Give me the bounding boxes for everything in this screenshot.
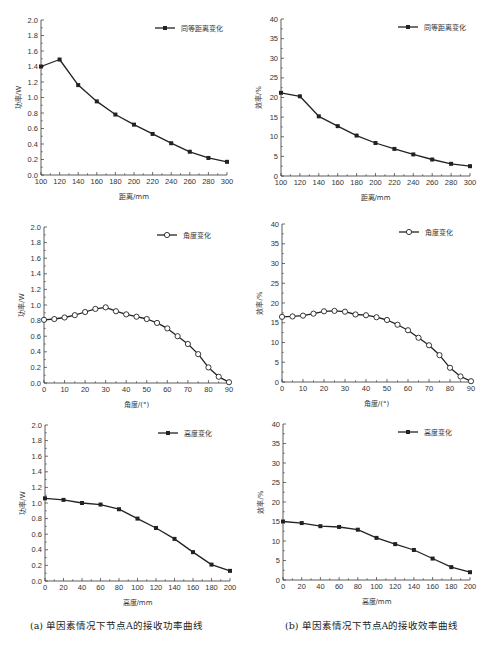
- data-point: [62, 315, 67, 320]
- data-point: [39, 65, 43, 69]
- x-tick-label: 20: [81, 385, 89, 394]
- x-tick-label: 80: [354, 582, 362, 591]
- data-point: [318, 524, 322, 528]
- x-tick-label: 140: [72, 177, 85, 186]
- data-point: [375, 536, 379, 540]
- data-point: [113, 309, 118, 314]
- y-tick-label: 1.2: [32, 483, 42, 492]
- y-tick-label: 1.0: [32, 499, 42, 508]
- y-tick-label: 15: [271, 318, 279, 327]
- data-point: [93, 306, 98, 311]
- data-point: [353, 312, 358, 317]
- chart-power-height: 0.00.20.40.60.81.01.21.41.61.82.00204060…: [18, 421, 236, 607]
- x-axis-label: 高度/mm: [362, 597, 392, 606]
- data-point: [175, 334, 180, 339]
- data-point: [151, 132, 155, 136]
- x-tick-label: 140: [168, 583, 181, 592]
- legend: 角度变化: [399, 228, 453, 237]
- data-point: [228, 569, 232, 573]
- y-tick-label: 0.4: [31, 347, 41, 356]
- y-tick-label: 1.2: [31, 285, 41, 294]
- y-tick-label: 35: [271, 239, 279, 248]
- legend-marker-icon: [406, 25, 410, 29]
- x-tick-label: 300: [464, 178, 477, 187]
- x-tick-label: 160: [91, 177, 104, 186]
- data-point: [342, 309, 347, 314]
- data-point: [165, 326, 170, 331]
- x-tick-label: 90: [225, 385, 233, 394]
- x-tick-label: 10: [60, 385, 68, 394]
- y-axis-label: 效率/%: [255, 291, 264, 314]
- data-point: [225, 160, 229, 164]
- data-point: [83, 309, 88, 314]
- data-point: [374, 315, 379, 320]
- x-tick-label: 280: [202, 177, 215, 186]
- x-tick-label: 40: [316, 582, 324, 591]
- x-tick-label: 40: [78, 583, 86, 592]
- y-tick-label: 0.8: [32, 514, 42, 523]
- x-tick-label: 200: [128, 177, 141, 186]
- y-tick-label: 1.8: [31, 238, 41, 247]
- legend-label: 角度变化: [425, 228, 453, 237]
- data-point: [430, 158, 434, 162]
- y-tick-label: 0.6: [28, 124, 38, 133]
- data-point: [154, 526, 158, 530]
- y-tick-label: 40: [270, 15, 278, 24]
- y-tick-label: 20: [272, 498, 280, 507]
- x-tick-label: 80: [115, 583, 123, 592]
- legend-marker-icon: [166, 431, 170, 435]
- y-tick-label: 0.2: [31, 363, 41, 372]
- data-point: [62, 498, 66, 502]
- data-point: [449, 162, 453, 166]
- caption-power-curves: (a) 单因素情况下节点A的接收功率曲线: [30, 618, 203, 632]
- legend: 高度变化: [398, 428, 452, 437]
- data-point: [300, 313, 305, 318]
- x-tick-label: 20: [298, 582, 306, 591]
- data-point: [52, 316, 57, 321]
- data-point: [412, 548, 416, 552]
- data-point: [411, 152, 415, 156]
- x-tick-label: 20: [59, 583, 67, 592]
- x-axis-label: 高度/mm: [123, 598, 153, 607]
- y-axis-label: 功率/W: [17, 293, 26, 316]
- x-axis-label: 角度/(°): [364, 399, 390, 408]
- y-tick-label: 2.0: [31, 223, 41, 232]
- data-point: [206, 156, 210, 160]
- y-tick-label: 1.2: [28, 78, 38, 87]
- legend-marker-icon: [163, 26, 167, 30]
- data-point: [374, 141, 378, 145]
- x-tick-label: 60: [404, 384, 412, 393]
- legend-marker-icon: [406, 229, 411, 234]
- x-tick-label: 180: [205, 583, 218, 592]
- data-point: [395, 322, 400, 327]
- y-tick-label: 0.8: [28, 109, 38, 118]
- x-axis-label: 角度/(°): [124, 400, 150, 409]
- x-tick-label: 220: [146, 177, 159, 186]
- x-tick-label: 120: [53, 177, 66, 186]
- legend: 高度变化: [158, 429, 212, 438]
- legend-label: 同等距离变化: [424, 23, 466, 32]
- y-tick-label: 15: [270, 113, 278, 122]
- data-point: [226, 380, 231, 385]
- data-point: [437, 353, 442, 358]
- legend-label: 高度变化: [424, 428, 452, 437]
- x-tick-label: 0: [42, 385, 46, 394]
- data-point: [80, 501, 84, 505]
- data-point: [210, 563, 214, 567]
- y-tick-label: 0.2: [32, 561, 42, 570]
- data-point: [405, 328, 410, 333]
- y-tick-label: 0: [275, 378, 279, 387]
- y-tick-label: 1.0: [31, 301, 41, 310]
- y-tick-label: 1.6: [28, 47, 38, 56]
- data-point: [363, 313, 368, 318]
- x-tick-label: 260: [426, 178, 439, 187]
- x-tick-label: 100: [131, 583, 144, 592]
- x-tick-label: 120: [389, 582, 402, 591]
- legend-label: 角度变化: [183, 231, 211, 240]
- x-tick-label: 50: [143, 385, 151, 394]
- data-point: [431, 557, 435, 561]
- y-tick-label: 25: [271, 279, 279, 288]
- data-point: [311, 311, 316, 316]
- data-point: [43, 496, 47, 500]
- x-tick-label: 160: [187, 583, 200, 592]
